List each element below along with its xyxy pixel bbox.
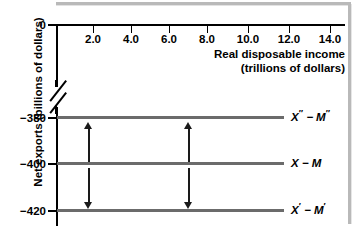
series-label-lower-base2: M [314, 204, 324, 216]
series-label-upper-base: X [291, 111, 299, 123]
net-exports-label-upper: X″ − M″ [291, 111, 330, 123]
x-tick-mark [169, 26, 170, 33]
x-tick-mark [248, 26, 249, 33]
series-label-upper-base2: M [316, 111, 326, 123]
x-tick-label: 14.0 [319, 33, 341, 45]
y-tick-mark [48, 210, 56, 212]
x-tick-label: 2.0 [85, 33, 101, 45]
y-tick-mark [48, 117, 56, 119]
series-label-upper-prime2: ″ [326, 108, 330, 118]
net-exports-label-middle: X − M [291, 157, 321, 169]
net-exports-line-upper [57, 116, 284, 119]
x-tick-mark [330, 26, 331, 33]
x-tick-mark [289, 26, 290, 33]
x-tick-label: 12.0 [278, 33, 300, 45]
y-tick-mark [48, 24, 56, 26]
series-label-middle-base: X [291, 157, 299, 169]
y-axis-line [56, 24, 58, 226]
shift-arrow-up-left [83, 122, 94, 162]
net-exports-chart: 2.0 4.0 6.0 8.0 10.0 12.0 14.0 0 −380 −4… [0, 0, 358, 237]
x-tick-label: 4.0 [123, 33, 139, 45]
shift-arrow-up-right [183, 122, 194, 162]
frame-top-rule-highlight [56, 5, 348, 6]
shift-arrow-down-left [83, 168, 94, 209]
shift-arrow-down-right [183, 168, 194, 209]
x-axis-title: Real disposable income (trillions of dol… [214, 48, 345, 75]
x-axis-line [56, 24, 345, 26]
net-exports-line-middle [57, 162, 284, 165]
frame-right-rule-highlight [351, 4, 352, 224]
series-label-lower-prime: ′ [299, 201, 301, 211]
series-label-middle-base2: M [312, 157, 322, 169]
net-exports-line-lower [57, 209, 284, 212]
x-tick-label: 10.0 [237, 33, 259, 45]
y-axis-break-icon [44, 80, 72, 114]
x-tick-mark [207, 26, 208, 33]
y-tick-label: −420 [20, 205, 46, 217]
series-label-lower-base: X [291, 204, 299, 216]
x-tick-label: 6.0 [161, 33, 177, 45]
x-tick-mark [93, 26, 94, 33]
x-tick-mark [131, 26, 132, 33]
x-axis-title-line1: Real disposable income [214, 48, 345, 62]
net-exports-label-lower: X′ − M′ [291, 204, 326, 216]
x-tick-label: 8.0 [199, 33, 215, 45]
x-axis-title-line2: (trillions of dollars) [214, 62, 345, 76]
y-axis-title: Net exports (billions of dollars) [32, 2, 44, 202]
series-label-lower-prime2: ′ [324, 201, 326, 211]
y-tick-mark [48, 163, 56, 165]
series-label-upper-prime: ″ [299, 108, 303, 118]
